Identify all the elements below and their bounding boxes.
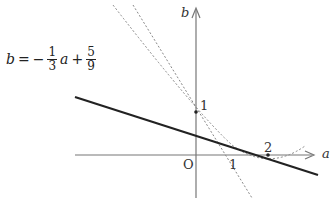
tick-label-a-1: 1 <box>229 158 237 171</box>
eq-var: a <box>60 51 68 67</box>
eq-frac-2: 5 9 <box>86 46 96 72</box>
eq-frac-1: 1 3 <box>47 46 57 72</box>
eq-plus: + <box>71 51 83 67</box>
eq-sign: − <box>33 51 45 67</box>
b-axis-label: b <box>181 6 189 19</box>
tick-label-a-2: 2 <box>264 141 272 154</box>
parabola-dashed <box>113 5 305 159</box>
origin-label: O <box>183 158 194 171</box>
line-equation: b = − 1 3 a + 5 9 <box>6 46 96 72</box>
tick-label-b-1: 1 <box>200 99 208 112</box>
a-axis-label: a <box>322 147 330 160</box>
eq-lhs: b <box>6 51 15 67</box>
plot-canvas <box>0 0 335 198</box>
eq-equals: = <box>18 51 30 67</box>
point-0-1 <box>194 110 198 114</box>
diagram: b a O 1 1 2 b = − 1 3 a + 5 9 <box>0 0 335 198</box>
